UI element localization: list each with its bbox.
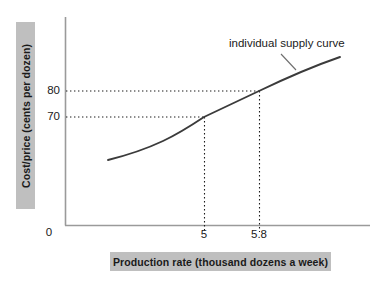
origin-label: 0	[40, 226, 58, 238]
annotation-leader-line	[281, 54, 296, 70]
x-axis-title: Production rate (thousand dozens a week)	[110, 252, 331, 271]
y-tick-label-80: 80	[34, 84, 60, 96]
supply-curve-line	[108, 57, 340, 160]
y-axis-title-text: Cost/price (cents per dozen)	[20, 44, 32, 188]
y-tick-label-70: 70	[34, 110, 60, 122]
x-axis-title-text: Production rate (thousand dozens a week)	[113, 256, 328, 268]
x-tick-label-5: 5	[184, 228, 224, 240]
x-tick-label-5.8: 5.8	[239, 228, 279, 240]
y-axis-title: Cost/price (cents per dozen)	[16, 22, 35, 209]
curve-annotation-label: individual supply curve	[229, 37, 345, 49]
supply-curve-figure: Cost/price (cents per dozen) Production …	[0, 0, 390, 283]
